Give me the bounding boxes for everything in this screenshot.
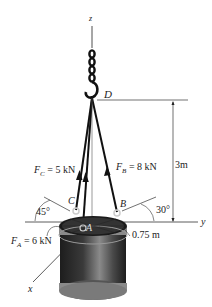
chain-icon — [89, 50, 94, 81]
force-fc-label: FC = 5 kN — [34, 165, 75, 178]
arrow-icon-fb — [104, 166, 111, 176]
radius-label: 0.75 m — [132, 230, 160, 240]
angle-30-label: 30° — [156, 205, 170, 215]
cables — [76, 98, 117, 226]
point-a-label: A — [86, 223, 92, 233]
drum-icon — [59, 208, 127, 300]
force-fb-label: FB = 8 kN — [116, 162, 157, 175]
z-axis-label: z — [89, 15, 92, 23]
point-c-label: C — [68, 196, 75, 206]
arrow-icon-fa — [83, 172, 89, 182]
angle-45-label: 45° — [36, 207, 50, 217]
force-fa-label: FA = 6 kN — [11, 236, 52, 249]
point-d-label: D — [104, 89, 112, 100]
x-axis-label: x — [28, 284, 32, 294]
y-axis-label: y — [201, 217, 205, 227]
diagram-canvas — [0, 0, 212, 307]
angle-arc-30 — [141, 204, 154, 221]
height-dimension-label: 3m — [175, 160, 188, 170]
hook-icon — [86, 82, 98, 98]
point-b-label: B — [120, 199, 126, 209]
